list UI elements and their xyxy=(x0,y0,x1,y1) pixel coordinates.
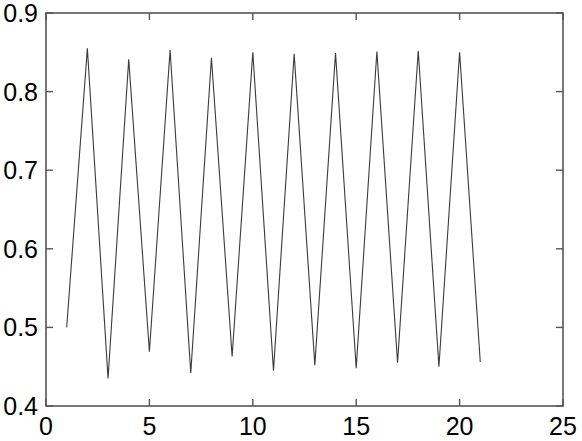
series-line-oscillation xyxy=(67,48,481,378)
x-tick-label-0: 0 xyxy=(39,414,53,439)
x-tick-label-4: 20 xyxy=(446,414,474,439)
x-tick-label-2: 10 xyxy=(239,414,267,439)
y-tick-label-3: 0.7 xyxy=(0,158,38,183)
x-tick-label-1: 5 xyxy=(142,414,156,439)
y-tick-label-1: 0.5 xyxy=(0,315,38,340)
figure-canvas: 0.40.50.60.70.80.9 0510152025 xyxy=(0,0,582,441)
y-tick-label-2: 0.6 xyxy=(0,236,38,261)
y-tick-label-5: 0.9 xyxy=(0,1,38,26)
x-tick-label-3: 15 xyxy=(342,414,370,439)
y-tick-label-4: 0.8 xyxy=(0,79,38,104)
x-tick-label-5: 25 xyxy=(549,414,577,439)
chart-plot-area xyxy=(0,0,582,441)
y-tick-label-0: 0.4 xyxy=(0,394,38,419)
data-series-group xyxy=(67,48,481,378)
